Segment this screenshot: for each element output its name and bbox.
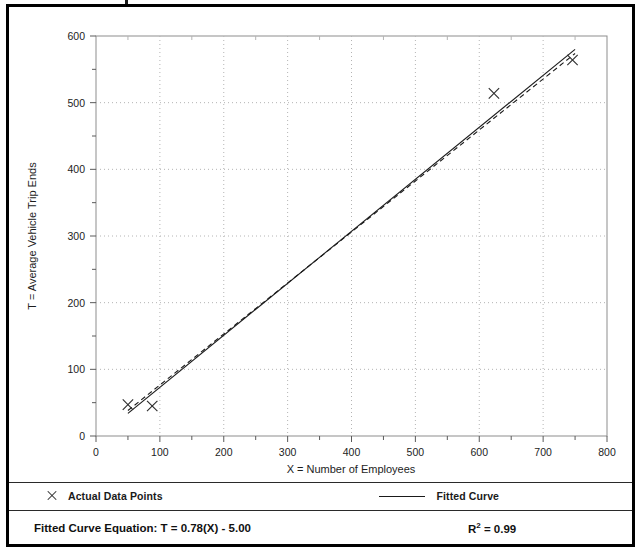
legend-item-actual-data-points: Actual Data Points [45,483,163,509]
plot-area-wrapper: 0100200300400500600700800 01002003004005… [0,0,641,551]
scatter-plot-svg: 0100200300400500600700800 01002003004005… [0,0,641,551]
chart-legend: Actual Data Points Fitted Curve Average … [9,483,632,509]
legend-label-fitted-curve: Fitted Curve [437,490,499,502]
x-axis-title: X = Number of Employees [287,463,416,475]
x-tick-label: 0 [93,446,99,458]
x-tick-label: 500 [407,446,425,458]
y-tick-label: 0 [79,430,85,442]
chart-figure: 0100200300400500600700800 01002003004005… [0,0,641,551]
x-tick-label: 300 [279,446,297,458]
y-tick-label: 200 [67,297,85,309]
x-tick-label: 700 [534,446,552,458]
x-axis-major-ticks [96,436,607,442]
x-tick-label: 400 [343,446,361,458]
y-tick-label: 500 [67,97,85,109]
r-squared-value: R2 = 0.99 [468,521,516,535]
r-squared-number: = 0.99 [484,522,516,534]
x-axis-tick-labels: 0100200300400500600700800 [93,446,616,458]
solid-line-marker-icon [379,496,425,497]
legend-item-fitted-curve: Fitted Curve [379,483,499,509]
y-axis-major-ticks [90,36,96,436]
y-axis-title: T = Average Vehicle Trip Ends [26,162,38,310]
y-tick-label: 400 [67,163,85,175]
x-tick-label: 100 [151,446,169,458]
x-tick-label: 200 [215,446,233,458]
legend-label-actual-data-points: Actual Data Points [68,490,163,502]
x-marker-icon [45,489,59,503]
x-tick-label: 800 [598,446,616,458]
r-squared-exponent: 2 [476,521,480,530]
x-tick-label: 600 [470,446,488,458]
chart-footer: Fitted Curve Equation: T = 0.78(X) - 5.0… [9,511,632,544]
y-tick-label: 300 [67,230,85,242]
fitted-curve-equation: Fitted Curve Equation: T = 0.78(X) - 5.0… [34,522,251,534]
y-tick-label: 600 [67,30,85,42]
y-tick-label: 100 [67,363,85,375]
y-axis-tick-labels: 0100200300400500600 [67,30,85,442]
